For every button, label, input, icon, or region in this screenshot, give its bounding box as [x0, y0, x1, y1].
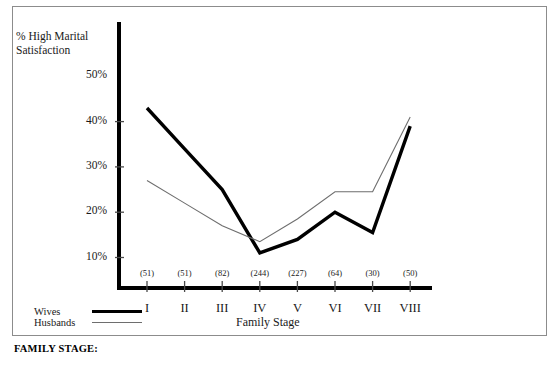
y-axis-tick-label: 10%: [71, 250, 107, 262]
x-axis-stage-label: IV: [240, 301, 280, 316]
figure-root: % High Marital Satisfaction Family Stage…: [0, 0, 554, 369]
chart-legend: Wives Husbands: [34, 306, 184, 328]
legend-label-husbands: Husbands: [34, 317, 86, 328]
x-axis-sample-size-label: (50): [390, 268, 430, 278]
chart-axes: [117, 22, 432, 290]
y-axis-tick-label: 30%: [71, 159, 107, 171]
x-axis-sample-size-label: (244): [240, 268, 280, 278]
x-axis-sample-size-label: (51): [165, 268, 205, 278]
x-axis-sample-size-label: (82): [202, 268, 242, 278]
legend-label-wives: Wives: [34, 306, 86, 317]
x-axis-stage-label: VII: [353, 301, 393, 316]
thin-line-swatch: [92, 322, 142, 323]
series-line-wives: [147, 108, 410, 253]
x-axis-sample-size-label: (227): [277, 268, 317, 278]
chart-series: [147, 108, 410, 253]
legend-item-husbands: Husbands: [34, 317, 184, 328]
legend-item-wives: Wives: [34, 306, 184, 317]
figure-caption: FAMILY STAGE:: [14, 343, 534, 355]
x-axis-stage-label: VIII: [390, 301, 430, 316]
thick-line-swatch: [92, 310, 142, 313]
y-axis-tick-label: 50%: [71, 68, 107, 80]
x-axis-stage-label: VI: [315, 301, 355, 316]
x-axis-sample-size-label: (51): [127, 268, 167, 278]
series-line-husbands: [147, 117, 410, 242]
caption-heading: FAMILY STAGE:: [14, 343, 534, 354]
x-axis-stage-label: III: [202, 301, 242, 316]
x-axis-sample-size-label: (30): [353, 268, 393, 278]
x-axis-sample-size-label: (64): [315, 268, 355, 278]
y-axis-tick-label: 40%: [71, 114, 107, 126]
y-axis-tick-label: 20%: [71, 204, 107, 216]
x-axis-stage-label: V: [277, 301, 317, 316]
